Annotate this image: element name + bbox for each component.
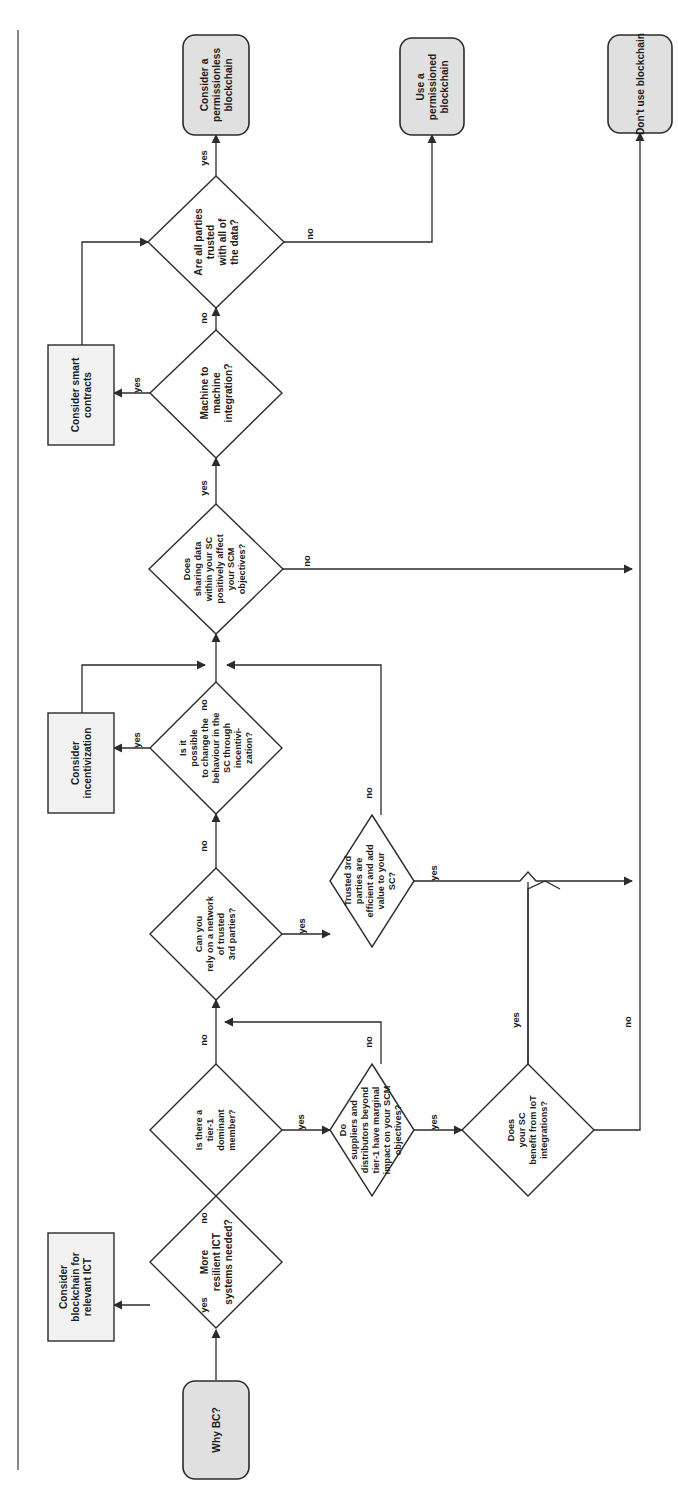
- node-label-line-2: suppliers and: [349, 1100, 359, 1160]
- node-label-line-1: Are all parties: [193, 208, 204, 276]
- node-label-line-3: dominant: [216, 1109, 226, 1150]
- node-label-line-2: possible: [189, 729, 199, 766]
- node-label-line-3: with all of: [217, 218, 228, 267]
- edge-label-tier1-no: no: [198, 1034, 209, 1046]
- node-label-line-4: the data?: [229, 219, 240, 264]
- node-label-line-1: Can you: [194, 916, 204, 952]
- flowchart-canvas: Why BC? More resilient ICT systems neede…: [0, 0, 678, 1498]
- node-label-line-3: distributors beyond: [360, 1087, 370, 1173]
- edge-label-ict-yes: yes: [198, 1297, 209, 1313]
- edge-label-third-no: no: [363, 787, 374, 799]
- node-label-line-3: relevant ICT: [82, 1257, 93, 1316]
- node-label-line-4: tier-1 have marginal: [371, 1087, 381, 1174]
- node-label-line-4: integrations?: [539, 1101, 549, 1160]
- node-label-line-2: parties are: [354, 858, 364, 904]
- node-use-permissioned-blockchain[interactable]: Use a permissioned blockchain: [400, 38, 464, 135]
- edge-label-iot-yes: yes: [510, 1012, 521, 1028]
- node-label-line-1: Machine to: [199, 366, 210, 419]
- node-label-line-3: of trusted: [216, 913, 226, 955]
- edge-label-incent-no: no: [198, 699, 209, 711]
- node-label-line-2: contracts: [82, 372, 93, 418]
- node-label-line-1: Trusted 3rd: [343, 856, 353, 906]
- edge-label-trustdata-no: no: [304, 228, 315, 240]
- node-label-line-2: your SC: [517, 1112, 527, 1148]
- node-label-line-2: tier-1: [205, 1119, 215, 1141]
- node-label-line-3: efficient and add: [365, 845, 375, 918]
- node-label-line-3: systems needed?: [223, 1219, 234, 1305]
- edge-label-network-no: no: [198, 840, 209, 852]
- node-label-line-3: blockchain: [223, 58, 234, 111]
- node-label-line-2: permissioned: [427, 54, 438, 120]
- node-label-line-2: trusted: [205, 225, 216, 260]
- process-shape: [48, 713, 114, 813]
- node-start[interactable]: Why BC?: [183, 1381, 249, 1479]
- flowchart-svg: Why BC? More resilient ICT systems neede…: [0, 0, 678, 1498]
- node-label-line-1: Consider: [70, 741, 81, 785]
- node-consider-blockchain-ict[interactable]: Consider blockchain for relevant ICT: [48, 1233, 114, 1341]
- node-label-line-5: impact on your SCM: [382, 1085, 392, 1174]
- node-label-line-1: Use a: [415, 73, 426, 101]
- edge-label-third-yes: yes: [428, 865, 439, 881]
- node-label-line-3: blockchain: [439, 60, 450, 113]
- node-label-line-1: Consider a: [199, 58, 210, 111]
- edge-label-iot-no: no: [622, 1016, 633, 1028]
- node-consider-incentivization[interactable]: Consider incentivization: [48, 713, 114, 813]
- node-label-line-2: permissionless: [211, 48, 222, 123]
- node-label-line-6: objectives?: [237, 543, 247, 594]
- edge-label-trustdata-yes: yes: [198, 150, 209, 166]
- node-label-line-3: to change the: [200, 718, 210, 778]
- node-label-line-4: positively affect: [215, 534, 225, 603]
- node-label-line-2: incentivization: [82, 728, 93, 799]
- node-label-line-1: Is there a: [194, 1109, 204, 1150]
- node-label-line-2: rely on a network: [205, 895, 215, 971]
- node-label-line-6: incentivi-: [233, 728, 243, 768]
- node-label-line-6: objectives?: [393, 1104, 403, 1155]
- node-label-line-2: resilient ICT: [211, 1232, 222, 1291]
- edge-label-suppliers-no: no: [363, 1036, 374, 1048]
- node-label-line-5: SC through: [222, 723, 232, 773]
- node-label: Don't use blockchain: [635, 33, 646, 135]
- edge-label-suppliers-yes: yes: [428, 1114, 439, 1130]
- node-label-line-4: behaviour in the: [211, 713, 221, 784]
- node-label-line-5: SC?: [387, 871, 397, 890]
- node-label-line-1: Is it: [178, 740, 188, 756]
- node-label-line-1: Do: [338, 1123, 348, 1136]
- edge-label-tier1-yes: yes: [295, 1114, 306, 1130]
- node-label: Why BC?: [211, 1407, 222, 1452]
- node-label-line-1: Consider: [58, 1265, 69, 1309]
- node-label-line-1: More: [199, 1249, 210, 1274]
- edge-label-ict-no: no: [198, 1212, 209, 1224]
- node-label-line-2: sharing data: [193, 541, 203, 597]
- edge-label-sharing-yes: yes: [198, 480, 209, 496]
- node-label-line-1: Does: [182, 558, 192, 580]
- node-label-line-3: integration?: [223, 364, 234, 423]
- node-label-line-7: zation?: [244, 732, 254, 765]
- node-consider-smart-contracts[interactable]: Consider smart contracts: [48, 345, 114, 445]
- edge-label-network-yes: yes: [296, 918, 307, 934]
- node-label-line-5: your SCM: [226, 547, 236, 590]
- node-label-line-3: benefit from IoT: [528, 1095, 538, 1165]
- edge-label-m2m-no: no: [198, 312, 209, 324]
- node-label-line-2: machine: [211, 372, 222, 414]
- node-label-line-1: Does: [506, 1119, 516, 1141]
- node-label-line-4: value to your: [376, 852, 386, 910]
- node-dont-use-blockchain[interactable]: Don't use blockchain: [608, 33, 672, 135]
- node-label-line-1: Consider smart: [70, 357, 81, 432]
- edge-label-m2m-yes: yes: [131, 377, 142, 393]
- edge-label-sharing-no: no: [301, 555, 312, 567]
- node-label-line-4: member?: [227, 1109, 237, 1151]
- process-shape: [48, 345, 114, 445]
- node-label-line-2: blockchain for: [70, 1252, 81, 1322]
- edge-label-incent-yes: yes: [131, 732, 142, 748]
- node-label-line-4: 3rd parties?: [227, 907, 237, 960]
- node-label-line-3: within your SC: [204, 536, 214, 602]
- node-consider-permissionless-blockchain[interactable]: Consider a permissionless blockchain: [183, 35, 249, 135]
